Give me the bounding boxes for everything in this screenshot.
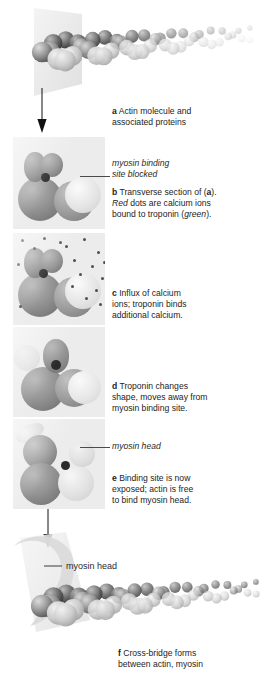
myosin-binding-site-dot-c <box>39 269 48 278</box>
caption-a-label: a <box>112 106 117 116</box>
caption-e-l3: to bind myosin head. <box>112 495 191 505</box>
figure-root: myosin binding site blocked b Transverse… <box>0 0 275 687</box>
troponin-sphere-d-upper <box>43 339 69 373</box>
calcium-ion-dot <box>59 241 62 244</box>
actin-sphere-e-pale-lower <box>58 465 94 501</box>
calcium-ion-dot <box>83 238 86 241</box>
annotation-myosin-head-e: myosin head <box>112 441 262 452</box>
caption-a-l1: Actin molecule and <box>119 106 192 116</box>
caption-c-l1: Influx of calcium <box>119 288 181 298</box>
calcium-ion-dot <box>33 247 36 250</box>
actin-sphere-e-large-left <box>20 463 62 505</box>
binding-site-line1: myosin binding <box>112 158 169 168</box>
calcium-ion-dot <box>65 245 68 248</box>
actin-sphere-d-large-right <box>55 369 93 407</box>
panel-b <box>13 137 105 229</box>
caption-f-l2: between actin, myosin <box>118 659 203 669</box>
caption-c-l3: additional calcium. <box>112 310 183 320</box>
caption-c: c Influx of calcium ions; troponin binds… <box>112 288 267 322</box>
panel-c <box>13 233 105 325</box>
tropomyosin-sphere-b-upper-left <box>24 152 46 182</box>
cross-bridge-illustration <box>0 528 275 668</box>
calcium-ion-dot <box>43 237 46 240</box>
myosin-binding-site-dot-b <box>41 173 50 182</box>
troponin-sphere-b-upper-right <box>41 153 63 177</box>
calcium-ion-dot <box>19 305 22 308</box>
caption-d-l2: shape, moves away from <box>112 392 208 402</box>
caption-c-l2: ions; troponin binds <box>112 299 187 309</box>
actin-sphere-c-large-right <box>54 277 94 317</box>
calcium-ion-dot <box>71 285 74 288</box>
myosin-binding-site-dot-d <box>51 360 61 370</box>
calcium-ion-dot <box>91 265 94 268</box>
annotation-binding-site: myosin binding site blocked <box>112 158 262 180</box>
caption-f: f Cross-bridge forms between actin, myos… <box>118 648 268 670</box>
calcium-ion-dot <box>97 251 100 254</box>
leader-binding-site <box>80 176 110 177</box>
calcium-ion-dot <box>79 273 82 276</box>
myosin-head-shape-e <box>13 419 47 447</box>
annotation-myosin-head-bottom: myosin head <box>66 561 186 572</box>
caption-f-l1: Cross-bridge forms <box>123 648 196 658</box>
caption-e-l2: exposed; actin is free <box>112 484 193 494</box>
panel-e <box>13 419 105 509</box>
calcium-ion-dot <box>17 263 20 266</box>
calcium-ion-dot <box>103 261 105 264</box>
troponin-sphere-e-right <box>69 441 95 467</box>
actin-sphere-b-large-left <box>18 177 62 221</box>
calcium-ion-dot <box>21 239 24 242</box>
caption-d: d Troponin changes shape, moves away fro… <box>112 381 267 415</box>
caption-f-label: f <box>118 648 121 658</box>
actin-sphere-d-pale <box>68 371 101 404</box>
ghost-sphere-d <box>14 345 40 371</box>
troponin-sphere-c-upper-right <box>41 249 63 273</box>
arrow-a-to-b <box>34 88 54 136</box>
caption-a-l2: associated proteins <box>112 117 186 127</box>
caption-d-label: d <box>112 381 117 391</box>
calcium-ion-dot <box>99 303 102 306</box>
binding-site-line2: site blocked <box>112 169 157 179</box>
actin-sphere-b-pale <box>65 177 101 213</box>
actin-sphere-c-pale <box>65 273 101 309</box>
calcium-ion-dot <box>85 297 88 300</box>
calcium-ion-dot <box>95 289 98 292</box>
leader-myosin-head-e <box>80 447 110 448</box>
caption-c-label: c <box>112 288 117 298</box>
caption-b: b Transverse section of (a). Red dots ar… <box>112 187 267 221</box>
caption-a: a Actin molecule and associated proteins <box>112 106 267 128</box>
caption-e-l1: Binding site is now <box>119 473 190 483</box>
calcium-ion-dot <box>101 277 104 280</box>
caption-b-label: b <box>112 187 117 197</box>
actin-sphere-e-upper-left <box>23 435 57 469</box>
caption-e-label: e <box>112 473 117 483</box>
panel-d <box>13 327 105 417</box>
caption-d-l1: Troponin changes <box>119 381 187 391</box>
calcium-ion-dot <box>73 259 76 262</box>
actin-sphere-c-large-left <box>18 273 62 317</box>
caption-d-l3: myosin binding site. <box>112 403 187 413</box>
myosin-binding-site-dot-e <box>61 461 70 470</box>
tropomyosin-sphere-c-upper-left <box>24 248 46 278</box>
caption-e: e Binding site is now exposed; actin is … <box>112 473 267 507</box>
actin-sphere-b-large-right <box>54 181 94 221</box>
actin-sphere-d-large-left <box>21 367 65 411</box>
